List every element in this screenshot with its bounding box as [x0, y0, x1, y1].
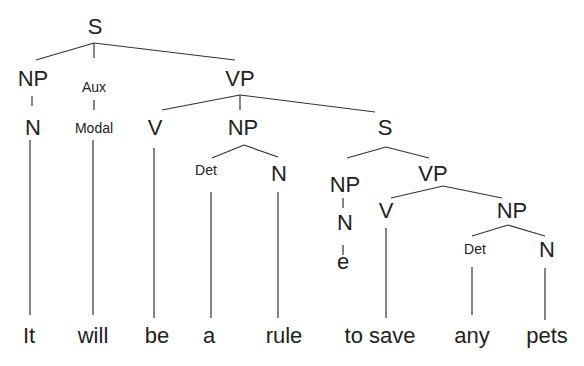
node-np-object: NP: [228, 117, 259, 139]
word-a: a: [203, 325, 215, 347]
node-n-object: N: [271, 163, 287, 185]
node-v-embedded: V: [379, 200, 394, 222]
word-rule: rule: [266, 325, 303, 347]
node-s-root: S: [88, 16, 103, 38]
word-it: It: [23, 325, 35, 347]
node-det-object: Det: [195, 163, 217, 177]
node-e-empty: e: [337, 251, 349, 273]
node-np-embedded: NP: [330, 174, 361, 196]
word-to-save: to save: [345, 325, 416, 347]
word-will: will: [78, 325, 109, 347]
node-vp-embedded: VP: [418, 163, 447, 185]
word-any: any: [454, 325, 489, 347]
word-pets: pets: [526, 325, 568, 347]
word-be: be: [145, 325, 169, 347]
node-np-embedded-object: NP: [497, 200, 528, 222]
node-np-subject: NP: [18, 68, 49, 90]
tree-branches: [0, 0, 584, 366]
node-n-embedded: N: [337, 212, 353, 234]
node-det-embedded: Det: [464, 242, 486, 256]
node-v-main: V: [148, 117, 163, 139]
node-s-embedded: S: [378, 117, 393, 139]
node-n-subject: N: [25, 117, 41, 139]
node-n-embedded-object: N: [539, 239, 555, 261]
node-aux: Aux: [82, 80, 106, 94]
branch-s-vp: [94, 43, 235, 60]
node-modal: Modal: [75, 121, 113, 135]
branch-s-np: [36, 43, 94, 60]
node-vp-main: VP: [225, 68, 254, 90]
